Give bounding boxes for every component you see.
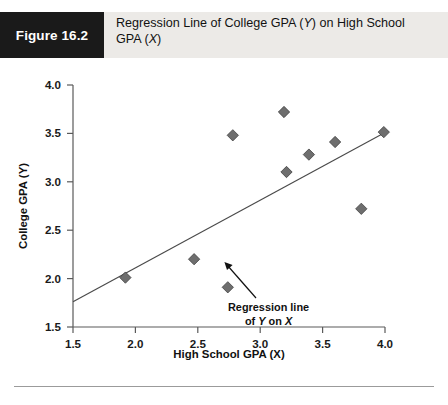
figure-number-badge: Figure 16.2	[0, 12, 104, 58]
y-tick-label: 3.5	[27, 126, 61, 139]
data-point	[303, 149, 314, 160]
figure-number-label: Figure 16.2	[16, 28, 88, 43]
scatter-plot	[0, 62, 448, 374]
y-tick-label: 4.0	[27, 78, 61, 91]
y-tick-label: 2.0	[27, 272, 61, 285]
bottom-divider	[14, 386, 434, 387]
data-point	[188, 254, 199, 265]
annotation-line-2: of Y on X	[228, 314, 309, 328]
y-axis-title: College GPA (Y)	[17, 131, 29, 281]
data-point	[222, 282, 233, 293]
data-point	[120, 272, 131, 283]
data-point	[329, 136, 340, 147]
data-points	[120, 106, 390, 293]
figure-caption: Regression Line of College GPA (Y) on Hi…	[104, 12, 448, 58]
annotation-line-1: Regression line	[228, 301, 309, 313]
data-point	[278, 106, 289, 117]
y-tick-label: 3.0	[27, 175, 61, 188]
data-point	[281, 166, 292, 177]
y-tick-label: 1.5	[27, 320, 61, 333]
y-tick-label: 2.5	[27, 223, 61, 236]
figure-caption-text: Regression Line of College GPA (Y) on Hi…	[116, 16, 405, 47]
data-point	[378, 126, 389, 137]
y-axis-ticks	[67, 85, 73, 327]
regression-line-annotation: Regression line of Y on X	[228, 300, 309, 328]
figure-caption-line-1: Regression Line of College GPA (Y) on Hi…	[116, 16, 405, 30]
regression-line	[73, 132, 385, 301]
figure-caption-line-2: GPA (X)	[116, 32, 161, 46]
figure-header: Figure 16.2 Regression Line of College G…	[0, 12, 448, 58]
chart-area: 4.0 3.5 3.0 2.5 2.0 1.5 1.5 2.0 2.5 3.0 …	[0, 62, 448, 374]
data-point	[227, 130, 238, 141]
annotation-arrow	[224, 262, 256, 298]
x-axis-title: High School GPA (X)	[73, 348, 385, 360]
data-point	[356, 203, 367, 214]
